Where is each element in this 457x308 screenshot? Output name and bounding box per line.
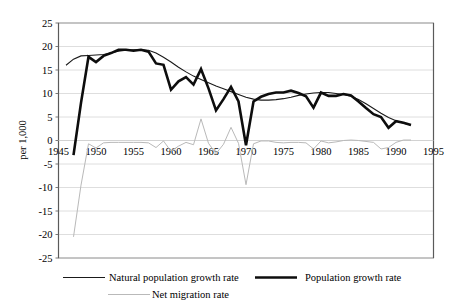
legend-label-2: Net migration rate xyxy=(152,289,229,300)
y-tick-label: -10 xyxy=(39,182,53,193)
y-tick-label: 20 xyxy=(42,41,53,52)
chart-container: 2520151050-5-10-15-20-25 194519501955196… xyxy=(0,0,457,308)
x-tick-label: 1985 xyxy=(348,146,369,157)
x-tick-label: 1965 xyxy=(198,146,219,157)
y-tick-label: 25 xyxy=(42,18,53,29)
y-tick-label: 15 xyxy=(42,65,53,76)
series-line-2 xyxy=(74,119,412,237)
x-tick-label: 1980 xyxy=(311,146,332,157)
x-tick-label: 1955 xyxy=(123,146,144,157)
legend-label-0: Natural population growth rate xyxy=(109,272,239,283)
x-tick-label: 1975 xyxy=(273,146,294,157)
line-chart: 2520151050-5-10-15-20-25 194519501955196… xyxy=(0,0,457,308)
y-tick-label: -5 xyxy=(44,159,53,170)
chart-legend: Natural population growth ratePopulation… xyxy=(63,272,402,300)
series-lines xyxy=(66,50,411,237)
x-tick-label: 1950 xyxy=(86,146,107,157)
y-tick-label: 5 xyxy=(47,112,52,123)
series-line-0 xyxy=(66,50,411,125)
y-tick-label: 0 xyxy=(47,135,52,146)
x-tick-label: 1995 xyxy=(423,146,444,157)
y-tick-label: 10 xyxy=(42,88,53,99)
legend-label-1: Population growth rate xyxy=(305,272,402,283)
y-axis-tick-labels: 2520151050-5-10-15-20-25 xyxy=(39,18,59,264)
y-tick-label: -15 xyxy=(39,206,53,217)
y-tick-label: -20 xyxy=(39,229,53,240)
x-tick-label: 1945 xyxy=(48,146,69,157)
y-tick-label: -25 xyxy=(39,253,53,264)
y-axis-title: per 1,000 xyxy=(17,120,28,160)
series-line-1 xyxy=(74,50,412,155)
